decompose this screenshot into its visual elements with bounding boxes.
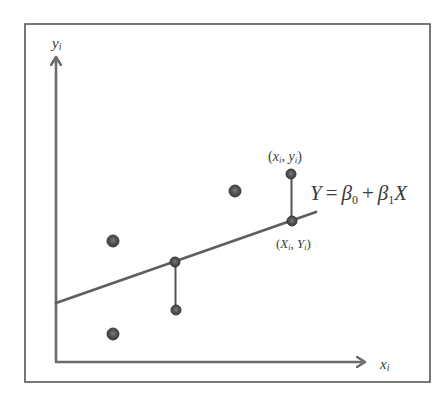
fitted-point-Xi-Yi <box>287 216 297 226</box>
observed-point-middle <box>171 305 181 315</box>
regression-diagram: yi xi (xi, yi) (Xi, Yi) Y=β0+β1X <box>0 0 442 400</box>
fitted-point-label: (Xi, Yi) <box>276 236 311 252</box>
data-point-lower-left <box>107 328 119 340</box>
data-point-upper-left <box>107 235 119 247</box>
data-point-upper-middle <box>229 185 241 197</box>
fitted-point-middle <box>170 257 180 267</box>
observed-point-label: (xi, yi) <box>268 149 302 165</box>
observed-point-xi-yi <box>286 169 296 179</box>
